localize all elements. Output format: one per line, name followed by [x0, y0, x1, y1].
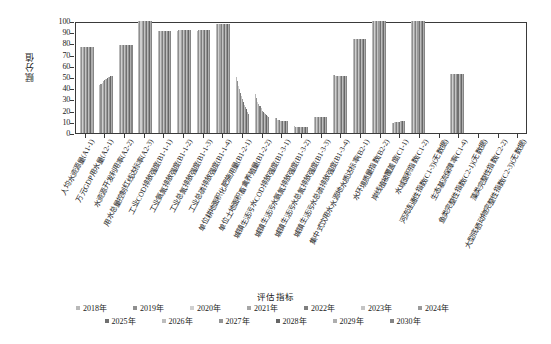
bar-group — [311, 23, 330, 133]
bar-group — [428, 23, 447, 133]
bar-group — [486, 23, 505, 133]
legend-swatch-icon — [76, 306, 80, 310]
bar — [93, 47, 94, 133]
bar — [326, 117, 327, 133]
y-axis-tick-mark — [70, 22, 74, 23]
bar — [151, 21, 152, 133]
legend-item[interactable]: 2028年 — [276, 315, 333, 326]
y-axis-tick-mark — [70, 67, 74, 68]
bar-group — [96, 23, 115, 133]
legend-label: 2027年 — [226, 315, 250, 326]
bar-group — [350, 23, 369, 133]
legend-label: 2026年 — [169, 315, 193, 326]
bar-group — [174, 23, 193, 133]
y-axis-tick-mark — [70, 56, 74, 57]
legend-item[interactable]: 2023年 — [361, 302, 418, 313]
bar — [424, 21, 425, 133]
y-axis-tick-label: 80 — [62, 40, 70, 48]
bar — [248, 114, 249, 133]
y-axis-tick-mark — [70, 134, 74, 135]
y-axis-tick-mark — [70, 44, 74, 45]
plot-area — [75, 22, 527, 134]
chart-root: 赋分值 0102030405060708090100 人均水资源量(A1-1)万… — [0, 0, 551, 344]
bar-group — [291, 23, 310, 133]
legend-swatch-icon — [390, 319, 394, 323]
legend-label: 2020年 — [197, 302, 221, 313]
legend-item[interactable]: 2020年 — [190, 302, 247, 313]
legend-label: 2024年 — [425, 302, 449, 313]
bar — [268, 117, 269, 133]
bar — [229, 24, 230, 133]
legend-item[interactable]: 2019年 — [133, 302, 190, 313]
bar — [385, 21, 386, 133]
bar-group — [408, 23, 427, 133]
legend-item[interactable]: 2025年 — [105, 315, 162, 326]
legend-swatch-icon — [418, 306, 422, 310]
legend-title: 评估指标 — [0, 290, 551, 302]
bar-group — [213, 23, 232, 133]
legend-swatch-icon — [304, 306, 308, 310]
legend-swatch-icon — [105, 319, 109, 323]
bar-groups-container — [76, 23, 526, 133]
legend-label: 2025年 — [112, 315, 136, 326]
legend-item[interactable]: 2022年 — [304, 302, 361, 313]
bar-group — [252, 23, 271, 133]
y-axis-tick-mark — [70, 123, 74, 124]
y-axis: 0102030405060708090100 — [46, 16, 74, 140]
bar-group — [389, 23, 408, 133]
legend-swatch-icon — [361, 306, 365, 310]
legend-item[interactable]: 2018年 — [76, 302, 133, 313]
y-axis-tick-label: 70 — [62, 52, 70, 60]
legend-swatch-icon — [190, 306, 194, 310]
bar-group — [155, 23, 174, 133]
bar — [365, 39, 366, 133]
legend-swatch-icon — [162, 319, 166, 323]
legend-item[interactable]: 2026年 — [162, 315, 219, 326]
legend: 2018年2019年2020年2021年2022年2023年2024年2025年… — [76, 302, 476, 326]
bar-group — [506, 23, 525, 133]
y-axis-tick-mark — [70, 100, 74, 101]
legend-label: 2028年 — [283, 315, 307, 326]
legend-swatch-icon — [133, 306, 137, 310]
legend-swatch-icon — [276, 319, 280, 323]
legend-item[interactable]: 2030年 — [390, 315, 447, 326]
y-axis-tick-mark — [70, 89, 74, 90]
bar — [209, 30, 210, 133]
legend-swatch-icon — [247, 306, 251, 310]
legend-label: 2022年 — [311, 302, 335, 313]
bar — [131, 45, 132, 133]
bar — [307, 127, 308, 133]
legend-item[interactable]: 2021年 — [247, 302, 304, 313]
legend-item[interactable]: 2024年 — [418, 302, 475, 313]
bar — [463, 74, 464, 133]
bar — [404, 121, 405, 133]
bar-group — [467, 23, 486, 133]
legend-swatch-icon — [333, 319, 337, 323]
y-axis-tick-label: 50 — [62, 74, 70, 82]
y-axis-tick-label: 100 — [59, 18, 70, 26]
bar — [190, 30, 191, 133]
bar — [287, 121, 288, 133]
bar-group — [77, 23, 96, 133]
bar-group — [116, 23, 135, 133]
y-axis-tick-label: 30 — [62, 96, 70, 104]
legend-item[interactable]: 2029年 — [333, 315, 390, 326]
y-axis-tick-mark — [70, 112, 74, 113]
bar-group — [369, 23, 388, 133]
legend-label: 2021年 — [254, 302, 278, 313]
y-axis-tick-mark — [70, 78, 74, 79]
legend-label: 2029年 — [340, 315, 364, 326]
legend-swatch-icon — [219, 319, 223, 323]
bar-group — [272, 23, 291, 133]
y-axis-tick-mark — [70, 33, 74, 34]
legend-item[interactable]: 2027年 — [219, 315, 276, 326]
bar-group — [330, 23, 349, 133]
y-axis-tick-label: 60 — [62, 63, 70, 71]
x-axis-labels: 人均水资源量(A1-1)万元GDP用水量(A2-1)水资源开发利用率(A2-2)… — [75, 138, 527, 288]
bar — [170, 31, 171, 133]
legend-label: 2018年 — [83, 302, 107, 313]
bar — [112, 76, 113, 133]
bar — [346, 76, 347, 133]
bar-group — [447, 23, 466, 133]
legend-label: 2030年 — [397, 315, 421, 326]
